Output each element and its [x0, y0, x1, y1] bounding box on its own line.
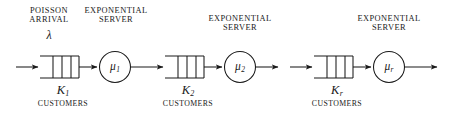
service-rate-index-stage-2: 2 — [241, 65, 245, 74]
server-caption-stage-2-line2: SERVER — [196, 23, 284, 32]
service-rate-index-stage-1: 1 — [116, 65, 120, 74]
arrival-rate-symbol: λ — [28, 29, 70, 42]
capacity-stage-1: K1 — [38, 84, 88, 99]
queue-box-stage-2 — [165, 56, 204, 78]
capacity-caption-stage-1: CUSTOMERS — [28, 100, 98, 108]
server-caption-stage-r-line1: EXPONENTIAL — [357, 14, 420, 23]
capacity-stage-2: K2 — [163, 84, 213, 99]
service-rate-stage-2: μ2 — [226, 60, 254, 74]
server-caption-stage-1-line2: SERVER — [72, 15, 160, 24]
server-caption-stage-1: EXPONENTIAL SERVER — [72, 6, 160, 24]
capacity-caption-stage-2: CUSTOMERS — [153, 100, 223, 108]
service-rate-stage-r: μr — [375, 60, 403, 74]
capacity-index-stage-2: 2 — [190, 89, 194, 98]
service-rate-symbol-stage-1: μ — [110, 60, 116, 72]
capacity-symbol-stage-2: K — [182, 83, 190, 97]
server-caption-stage-2: EXPONENTIAL SERVER — [196, 14, 284, 32]
capacity-index-stage-r: r — [339, 89, 343, 98]
server-caption-stage-2-line1: EXPONENTIAL — [208, 14, 271, 23]
service-rate-index-stage-r: r — [390, 65, 393, 74]
service-rate-symbol-stage-2: μ — [235, 60, 241, 72]
capacity-symbol-stage-1: K — [57, 83, 65, 97]
capacity-index-stage-1: 1 — [65, 89, 69, 98]
service-rate-stage-1: μ1 — [101, 60, 129, 74]
queue-box-stage-r — [314, 56, 353, 78]
arrival-caption-line1: POISSON — [30, 6, 68, 15]
queue-box-stage-1 — [40, 56, 79, 78]
capacity-stage-r: Kr — [312, 84, 362, 99]
server-caption-stage-r: EXPONENTIAL SERVER — [345, 14, 433, 32]
queueing-network-diagram: POISSON ARRIVAL λ EXPONENTIAL SERVER μ1 … — [0, 0, 449, 121]
server-caption-stage-1-line1: EXPONENTIAL — [84, 6, 147, 15]
capacity-caption-stage-r: CUSTOMERS — [302, 100, 372, 108]
server-caption-stage-r-line2: SERVER — [345, 23, 433, 32]
